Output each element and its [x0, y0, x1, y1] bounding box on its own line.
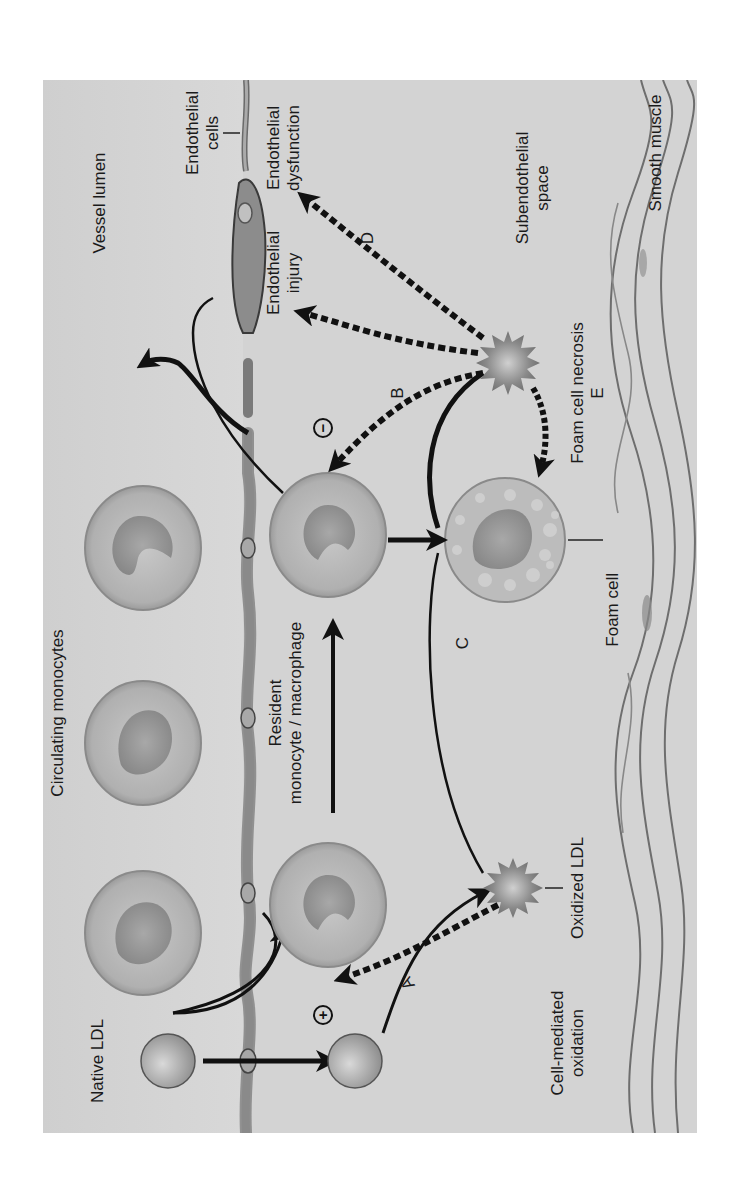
foam-cell — [445, 478, 565, 602]
atherogenesis-diagram: + − Vessel lumen Endothelial cells Endot… — [43, 80, 697, 1133]
native-ldl-label: Native LDL — [88, 1019, 107, 1103]
circulating-monocyte-1 — [85, 871, 201, 995]
resident-monocyte-1 — [270, 843, 386, 967]
pathway-letter-d: D — [358, 232, 377, 244]
subendothelial-space-label-1: Subendothelial — [513, 132, 532, 244]
oxidized-ldl-label: Oxidized LDL — [568, 837, 587, 939]
cell-mediated-label-1: Cell-mediated — [548, 991, 567, 1096]
native-ldl-particle — [141, 1034, 195, 1088]
endothelial-cells-label-2: cells — [203, 116, 222, 150]
circulating-monocyte-3 — [85, 486, 201, 610]
resident-label-2: monocyte / macrophage — [286, 622, 305, 804]
vessel-lumen-label: Vessel lumen — [90, 152, 109, 253]
pathway-letter-b: B — [388, 387, 407, 398]
pathway-letter-c: C — [453, 637, 472, 649]
diagram-frame: + − Vessel lumen Endothelial cells Endot… — [43, 80, 697, 1133]
foam-cell-label: Foam cell — [603, 573, 622, 647]
circulating-monocytes-label: Circulating monocytes — [48, 629, 67, 796]
endothelial-injury-label-2: injury — [284, 252, 303, 293]
diagram-rotated-canvas: + − Vessel lumen Endothelial cells Endot… — [43, 80, 697, 1133]
endothelial-dysfunction-label-2: dysfunction — [284, 105, 303, 191]
endothelial-cells-label-1: Endothelial — [183, 91, 202, 175]
svg-text:−: − — [314, 423, 331, 432]
resident-label-1: Resident — [266, 679, 285, 746]
subendothelial-ldl-particle — [328, 1034, 382, 1088]
smooth-muscle-label: Smooth muscle — [646, 94, 665, 211]
circulating-monocyte-2 — [85, 681, 201, 805]
endothelial-dysfunction-label-1: Endothelial — [264, 106, 283, 190]
foam-cell-necrosis-label: Foam cell necrosis — [568, 322, 587, 464]
subendothelial-space-label-2: space — [533, 165, 552, 210]
svg-text:+: + — [314, 1010, 331, 1019]
cell-mediated-label-2: oxidation — [568, 1009, 587, 1077]
endothelial-injury-label-1: Endothelial — [264, 231, 283, 315]
pathway-letter-e: E — [588, 387, 607, 398]
resident-monocyte-2 — [270, 473, 386, 597]
